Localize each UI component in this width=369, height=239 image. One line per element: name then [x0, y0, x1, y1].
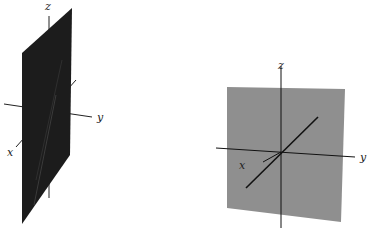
- right-y-label: y: [359, 151, 367, 164]
- right-figure: z y x: [216, 59, 367, 228]
- left-plane: [22, 8, 72, 224]
- right-x-label: x: [239, 159, 246, 172]
- right-plane: [227, 87, 345, 222]
- left-z-label: z: [44, 0, 51, 13]
- diagram-canvas: z y x z y x: [0, 0, 369, 239]
- left-x-label: x: [7, 146, 14, 159]
- right-z-label: z: [277, 59, 284, 72]
- left-y-label: y: [96, 111, 104, 124]
- left-figure: z y x: [4, 0, 104, 224]
